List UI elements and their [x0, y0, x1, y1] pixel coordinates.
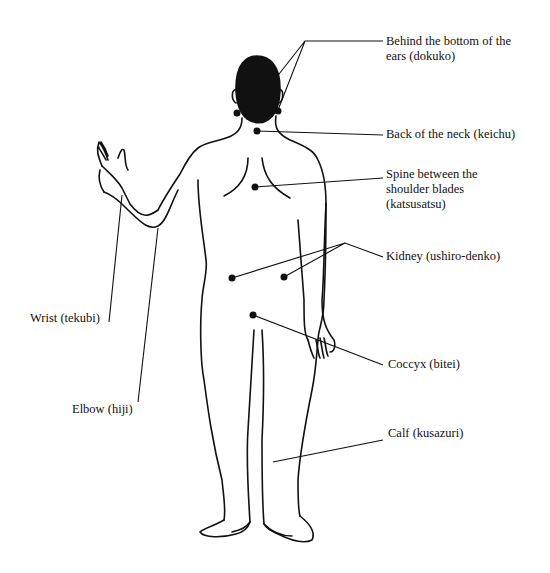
left-shoulder: [158, 118, 242, 210]
label-dokuko-line2: ears (dokuko): [386, 49, 511, 64]
right-arm-outer: [322, 204, 335, 352]
body-figure: [0, 0, 550, 573]
head: [236, 56, 280, 123]
left-arm-upper: [102, 166, 158, 215]
leader-katsusatsu: [255, 178, 383, 187]
label-katsusatsu-line2: shoulder blades: [386, 182, 478, 197]
label-keichu: Back of the neck (keichu): [386, 127, 515, 142]
label-kidney: Kidney (ushiro-denko): [386, 249, 500, 264]
label-wrist: Wrist (tekubi): [30, 311, 100, 326]
torso-right: [298, 204, 326, 516]
right-arm-inner: [298, 220, 308, 340]
label-coccyx: Coccyx (bitei): [388, 357, 460, 372]
label-elbow: Elbow (hiji): [72, 402, 133, 417]
torso-left: [198, 180, 225, 520]
label-dokuko: Behind the bottom of the ears (dokuko): [386, 34, 511, 64]
leader-calf: [273, 440, 383, 462]
leader-keichu: [257, 131, 383, 135]
label-katsusatsu-line3: (katsusatsu): [386, 197, 478, 212]
label-dokuko-line1: Behind the bottom of the: [386, 34, 511, 49]
left-leg-inner: [232, 330, 254, 532]
label-katsusatsu: Spine between the shoulder blades (katsu…: [386, 167, 478, 212]
leader-wrist: [109, 195, 122, 322]
leader-coccyx: [253, 315, 383, 365]
left-shoulder-blade: [224, 158, 248, 196]
leader-kidney: [232, 243, 383, 278]
leader-dokuko: [268, 41, 383, 110]
right-foot: [264, 516, 313, 542]
right-shoulder-blade: [262, 158, 290, 198]
right-leg-inner: [262, 330, 292, 536]
label-katsusatsu-line1: Spine between the: [386, 167, 478, 182]
right-shoulder: [276, 116, 326, 204]
leader-elbow: [138, 228, 158, 402]
label-calf: Calf (kusazuri): [388, 426, 463, 441]
